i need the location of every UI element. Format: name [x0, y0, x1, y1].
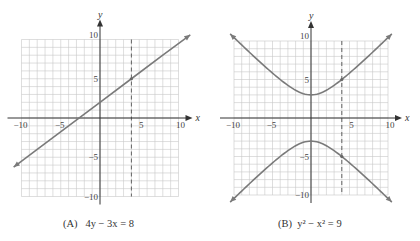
- caption-a-equation: 4y − 3x = 8: [85, 218, 134, 229]
- chart-b: −10−5510105−5−10xy: [220, 10, 410, 203]
- x-axis-arrow-icon: [186, 115, 193, 121]
- svg-text:−5: −5: [55, 120, 65, 130]
- y-axis-arrow-icon: [97, 20, 103, 27]
- svg-text:−5: −5: [267, 120, 277, 130]
- x-axis-arrow-icon: [395, 115, 402, 121]
- svg-text:y: y: [97, 9, 103, 20]
- caption-b-label: (B): [278, 218, 292, 229]
- chart-a: −10−5510105−5−10xy: [8, 9, 201, 205]
- caption-b: (B) y² − x² = 9: [278, 218, 342, 229]
- svg-text:x: x: [195, 112, 201, 123]
- svg-text:5: 5: [139, 120, 144, 130]
- svg-text:−5: −5: [88, 152, 98, 162]
- svg-text:−10: −10: [13, 120, 28, 130]
- svg-text:−5: −5: [299, 152, 309, 162]
- svg-text:5: 5: [305, 75, 310, 85]
- figure: −10−5510105−5−10xy −10−5510105−5−10xy: [0, 0, 420, 241]
- y-axis-arrow-icon: [308, 21, 314, 28]
- svg-text:−10: −10: [295, 190, 310, 200]
- svg-text:x: x: [404, 112, 410, 123]
- caption-a-label: (A): [63, 218, 78, 229]
- svg-text:5: 5: [349, 120, 354, 130]
- tick-labels-a: −10−5510105−5−10xy: [13, 9, 200, 202]
- svg-text:10: 10: [176, 120, 186, 130]
- tick-labels-b: −10−5510105−5−10xy: [226, 10, 410, 200]
- svg-text:y: y: [308, 10, 314, 21]
- svg-text:5: 5: [94, 74, 99, 84]
- svg-text:10: 10: [89, 30, 99, 40]
- svg-text:10: 10: [386, 120, 396, 130]
- caption-b-equation: y² − x² = 9: [297, 218, 341, 229]
- svg-text:−10: −10: [84, 192, 99, 202]
- svg-text:10: 10: [300, 31, 310, 41]
- curve-a: [14, 35, 191, 167]
- svg-text:−10: −10: [226, 120, 241, 130]
- caption-a: (A) 4y − 3x = 8: [63, 218, 134, 229]
